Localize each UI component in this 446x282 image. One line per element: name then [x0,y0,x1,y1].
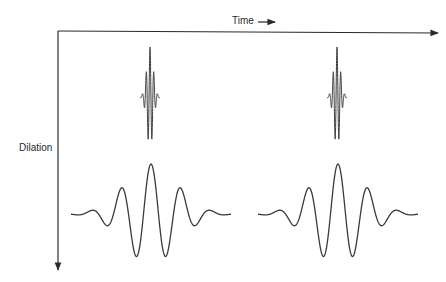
large-scale-wavelet-right [258,164,418,257]
wavelets-group [71,47,418,257]
large-scale-wavelet-left [71,164,231,257]
small-scale-wavelet-left [140,47,160,139]
time-axis-label: Time [232,15,254,26]
diagram-svg [0,0,446,282]
wavelet-dilation-diagram: Time Dilation [0,0,446,282]
small-scale-wavelet-right [327,47,347,139]
dilation-axis-label: Dilation [19,142,52,153]
time-axis [58,31,438,33]
